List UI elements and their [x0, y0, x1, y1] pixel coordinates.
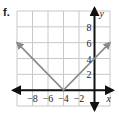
- x-tick-label: −4: [58, 93, 69, 104]
- y-axis-label: y: [99, 8, 105, 19]
- x-axis-label: x: [106, 93, 112, 104]
- x-tick-label: −2: [74, 93, 85, 104]
- x-tick-label: −6: [43, 93, 54, 104]
- grid-lines: [17, 11, 110, 106]
- y-tick-label: 4: [87, 54, 92, 65]
- graph: −8−6−4−22468xy: [0, 0, 119, 113]
- y-tick-label: 2: [87, 69, 92, 80]
- x-tick-label: −8: [27, 93, 38, 104]
- y-tick-label: 6: [87, 38, 92, 49]
- y-tick-label: 8: [87, 22, 92, 33]
